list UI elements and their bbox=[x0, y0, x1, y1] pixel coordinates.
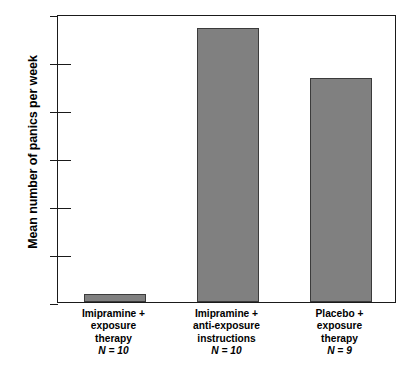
bar bbox=[84, 294, 146, 302]
x-axis-category-label: Imipramine + exposure therapy N = 10 bbox=[57, 308, 170, 357]
category-text: Imipramine + anti-exposure instructions bbox=[193, 308, 260, 344]
y-axis-tick bbox=[50, 208, 58, 209]
y-axis-tick bbox=[50, 16, 58, 17]
y-axis-tick bbox=[50, 64, 58, 65]
category-sample-size: N = 9 bbox=[327, 345, 352, 356]
y-axis-tick bbox=[50, 112, 58, 113]
y-axis-tick-inner bbox=[58, 208, 71, 209]
category-sample-size: N = 10 bbox=[211, 345, 241, 356]
bar-chart-figure: Mean number of panics per week 00.511.52… bbox=[0, 0, 412, 365]
category-text: Placebo + exposure therapy bbox=[316, 308, 364, 344]
y-axis-tick bbox=[50, 304, 58, 305]
bar bbox=[197, 28, 259, 302]
category-sample-size: N = 10 bbox=[98, 345, 128, 356]
y-axis-tick-inner bbox=[58, 112, 71, 113]
y-axis-tick-inner bbox=[58, 160, 71, 161]
y-axis-tick-inner bbox=[58, 256, 71, 257]
bar bbox=[310, 78, 372, 302]
y-axis-tick-inner bbox=[58, 64, 71, 65]
category-text: Imipramine + exposure therapy bbox=[82, 308, 145, 344]
x-axis-category-label: Imipramine + anti-exposure instructions … bbox=[170, 308, 283, 357]
y-axis-tick bbox=[50, 160, 58, 161]
x-axis-category-label: Placebo + exposure therapy N = 9 bbox=[283, 308, 396, 357]
y-axis-title: Mean number of panics per week bbox=[22, 7, 44, 297]
plot-area: 00.511.522.53 bbox=[57, 15, 396, 303]
y-axis-tick bbox=[50, 256, 58, 257]
